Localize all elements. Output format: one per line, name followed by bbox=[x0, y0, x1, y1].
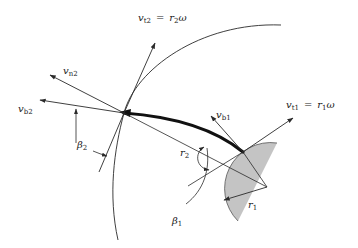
vt2-extension bbox=[99, 113, 124, 172]
label-vt2: vt2=r2ω bbox=[138, 13, 187, 25]
label-r1: r1 bbox=[248, 200, 257, 212]
vt2-vector bbox=[124, 43, 155, 113]
label-vn2: vn2 bbox=[63, 66, 78, 78]
label-vb2: vb2 bbox=[18, 104, 33, 116]
impeller-velocity-diagram bbox=[0, 0, 358, 248]
beta2-arc-leader bbox=[93, 151, 107, 156]
label-r2: r2 bbox=[180, 148, 189, 160]
label-vt1: vt1=r1ω bbox=[286, 100, 335, 112]
label-beta2: β2 bbox=[77, 140, 87, 152]
label-beta1: β1 bbox=[172, 216, 182, 228]
label-vb1: vb1 bbox=[216, 110, 231, 122]
